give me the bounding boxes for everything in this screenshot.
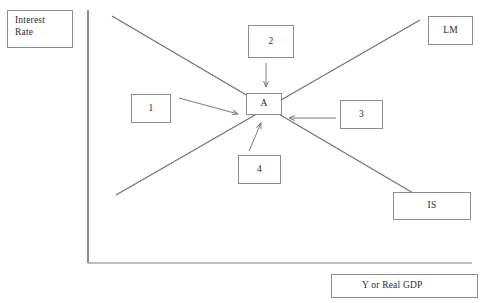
callout-box-2[interactable]: 2 <box>248 25 294 58</box>
equilibrium-point-label: A <box>260 98 267 110</box>
is-curve-label-box: IS <box>393 192 471 220</box>
y-axis-label-text: Interest Rate <box>15 15 45 39</box>
callout-1-arrow <box>179 98 238 114</box>
lm-curve-label-box: LM <box>428 16 473 45</box>
callout-box-1-label: 1 <box>149 103 154 115</box>
callout-box-3-label: 3 <box>359 109 364 121</box>
callout-box-4-label: 4 <box>257 164 262 176</box>
lm-curve-label: LM <box>443 25 458 37</box>
is-curve-label: IS <box>428 200 437 212</box>
callout-box-3[interactable]: 3 <box>340 100 383 129</box>
callout-box-2-label: 2 <box>269 36 274 48</box>
y-axis-label-box: Interest Rate <box>7 10 73 48</box>
x-axis-label-text: Y or Real GDP <box>362 280 423 292</box>
callout-box-1[interactable]: 1 <box>131 94 171 123</box>
callout-4-arrow <box>249 123 261 151</box>
diagram-canvas: Interest Rate 1 2 3 4 A LM IS Y or Real … <box>0 0 484 303</box>
callout-box-4[interactable]: 4 <box>238 155 281 184</box>
x-axis-label-box: Y or Real GDP <box>331 274 478 298</box>
equilibrium-point-box: A <box>246 93 282 115</box>
